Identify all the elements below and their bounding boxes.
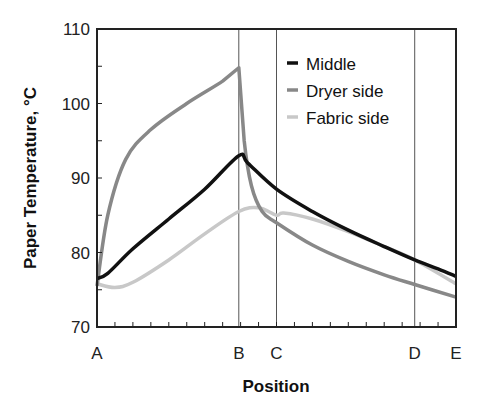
x-axis: ABCDE xyxy=(91,322,461,363)
y-tick-label: 70 xyxy=(71,318,90,337)
x-axis-title: Position xyxy=(242,377,309,396)
legend: MiddleDryer sideFabric side xyxy=(287,55,389,128)
legend-label: Middle xyxy=(306,55,356,74)
x-tick-label-c: C xyxy=(270,344,282,363)
y-axis: 708090100110 xyxy=(62,20,102,337)
x-tick-label-e: E xyxy=(450,344,461,363)
x-tick-label-b: B xyxy=(233,344,244,363)
line-chart: 708090100110 ABCDE Position Paper Temper… xyxy=(0,0,490,420)
legend-label: Fabric side xyxy=(306,109,389,128)
x-tick-label-d: D xyxy=(409,344,421,363)
y-axis-title: Paper Temperature, °C xyxy=(21,87,40,269)
legend-label: Dryer side xyxy=(306,82,383,101)
y-tick-label: 110 xyxy=(63,20,90,39)
x-tick-label-a: A xyxy=(91,344,103,363)
y-tick-label: 80 xyxy=(71,244,90,263)
y-tick-label: 90 xyxy=(71,169,90,188)
y-tick-label: 100 xyxy=(62,95,90,114)
